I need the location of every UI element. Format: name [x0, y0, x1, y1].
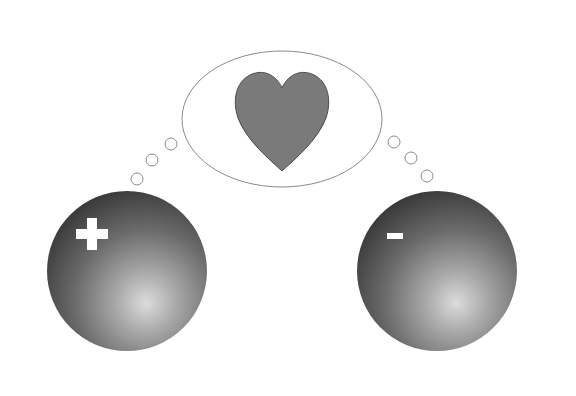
left-bubble-trail [131, 138, 177, 185]
bubble-dot [146, 154, 158, 166]
negative-sphere [357, 191, 517, 351]
bubble-dot [131, 173, 143, 185]
positive-sphere [47, 191, 207, 351]
minus-sign-icon [387, 233, 403, 239]
bubble-dot [165, 138, 177, 150]
bubble-dot [421, 170, 433, 182]
thought-bubble [182, 51, 382, 187]
charge-attraction-diagram [0, 0, 576, 396]
bubble-dot [405, 152, 417, 164]
right-bubble-trail [388, 136, 433, 182]
bubble-dot [388, 136, 400, 148]
